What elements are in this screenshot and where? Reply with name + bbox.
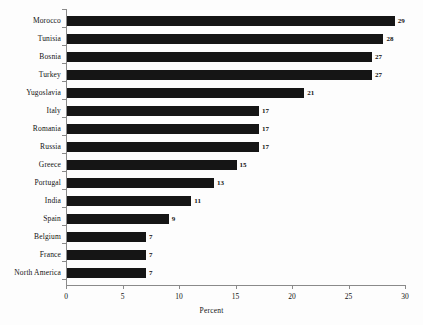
category-label: North America	[0, 266, 61, 280]
category-label: Tunisia	[0, 32, 61, 46]
y-axis-tick	[62, 63, 67, 64]
x-axis-tick-label: 0	[51, 291, 81, 303]
y-axis-tick	[62, 153, 67, 154]
x-axis-tick-label: 20	[277, 291, 307, 303]
bar	[67, 160, 237, 170]
bar-value-label: 7	[149, 230, 153, 244]
category-label: Morocco	[0, 14, 61, 28]
bar	[67, 124, 259, 134]
bar	[67, 142, 259, 152]
bar-value-label: 15	[240, 158, 247, 172]
bar	[67, 268, 146, 278]
bar-value-label: 17	[262, 122, 269, 136]
plot-area: Morocco29Tunisia28Bosnia27Turkey27Yugosl…	[0, 0, 423, 325]
y-axis-tick	[62, 171, 67, 172]
bar	[67, 214, 169, 224]
bar	[67, 196, 191, 206]
x-axis-tick-label: 5	[108, 291, 138, 303]
x-axis-tick	[123, 285, 124, 289]
category-label: Bosnia	[0, 50, 61, 64]
bar	[67, 250, 146, 260]
bar	[67, 232, 146, 242]
y-axis-tick	[62, 243, 67, 244]
bar	[67, 70, 372, 80]
x-axis-tick	[292, 285, 293, 289]
bar-value-label: 27	[375, 68, 382, 82]
category-label: France	[0, 248, 61, 262]
bar-value-label: 11	[194, 194, 201, 208]
bar-value-label: 21	[307, 86, 314, 100]
y-axis-tick	[62, 81, 67, 82]
bar-value-label: 17	[262, 104, 269, 118]
y-axis-tick	[62, 207, 67, 208]
y-axis-tick	[62, 225, 67, 226]
bar-chart: Morocco29Tunisia28Bosnia27Turkey27Yugosl…	[0, 0, 423, 325]
y-axis-tick	[62, 9, 67, 10]
x-axis-tick	[349, 285, 350, 289]
x-axis-title: Percent	[0, 306, 423, 315]
bar-value-label: 13	[217, 176, 224, 190]
category-label: Portugal	[0, 176, 61, 190]
bar	[67, 106, 259, 116]
x-axis-tick-label: 25	[334, 291, 364, 303]
y-axis-tick	[62, 117, 67, 118]
y-axis-tick	[62, 135, 67, 136]
bar	[67, 88, 304, 98]
category-label: Spain	[0, 212, 61, 226]
category-label: Romania	[0, 122, 61, 136]
bar-value-label: 9	[172, 212, 176, 226]
x-axis-tick-label: 15	[221, 291, 251, 303]
bar-value-label: 7	[149, 266, 153, 280]
category-label: Turkey	[0, 68, 61, 82]
bar	[67, 16, 395, 26]
x-axis-tick	[405, 285, 406, 289]
x-axis-tick-label: 10	[164, 291, 194, 303]
x-axis-tick	[236, 285, 237, 289]
category-label: Russia	[0, 140, 61, 154]
category-label: Greece	[0, 158, 61, 172]
x-axis-tick	[179, 285, 180, 289]
bar-value-label: 27	[375, 50, 382, 64]
y-axis-tick	[62, 279, 67, 280]
category-label: Italy	[0, 104, 61, 118]
x-axis-tick-label: 30	[390, 291, 420, 303]
y-axis-tick	[62, 189, 67, 190]
y-axis-tick	[62, 261, 67, 262]
category-label: India	[0, 194, 61, 208]
bar	[67, 34, 383, 44]
bar-value-label: 28	[386, 32, 393, 46]
x-axis-tick	[66, 285, 67, 289]
y-axis-tick	[62, 27, 67, 28]
bar	[67, 178, 214, 188]
bar-value-label: 29	[398, 14, 405, 28]
y-axis-tick	[62, 45, 67, 46]
category-label: Belgium	[0, 230, 61, 244]
bar-value-label: 17	[262, 140, 269, 154]
category-label: Yugoslavia	[0, 86, 61, 100]
bar-value-label: 7	[149, 248, 153, 262]
bar	[67, 52, 372, 62]
y-axis-tick	[62, 99, 67, 100]
